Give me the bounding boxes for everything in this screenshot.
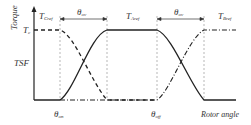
y-axis-label: Torque [10, 5, 19, 30]
tsf-label: TSF [14, 59, 29, 68]
theta-off-label: θoff [151, 110, 161, 119]
overlap-label-2: θov [174, 8, 183, 17]
overlap-arrow-1 [60, 18, 107, 21]
t-cref-label: TCref [39, 12, 53, 21]
theta-on-label: θon [54, 110, 63, 119]
overlap-arrow-2 [157, 18, 204, 21]
guide-lines [60, 16, 204, 100]
t-aref-label: TAref [126, 12, 139, 21]
x-axis-label: Rotor angle [201, 111, 239, 119]
overlap-label-1: θov [77, 8, 86, 17]
y-axis [32, 6, 37, 100]
tc-level-label: Tc [23, 26, 30, 35]
t-bref-label: TBref [218, 12, 231, 21]
